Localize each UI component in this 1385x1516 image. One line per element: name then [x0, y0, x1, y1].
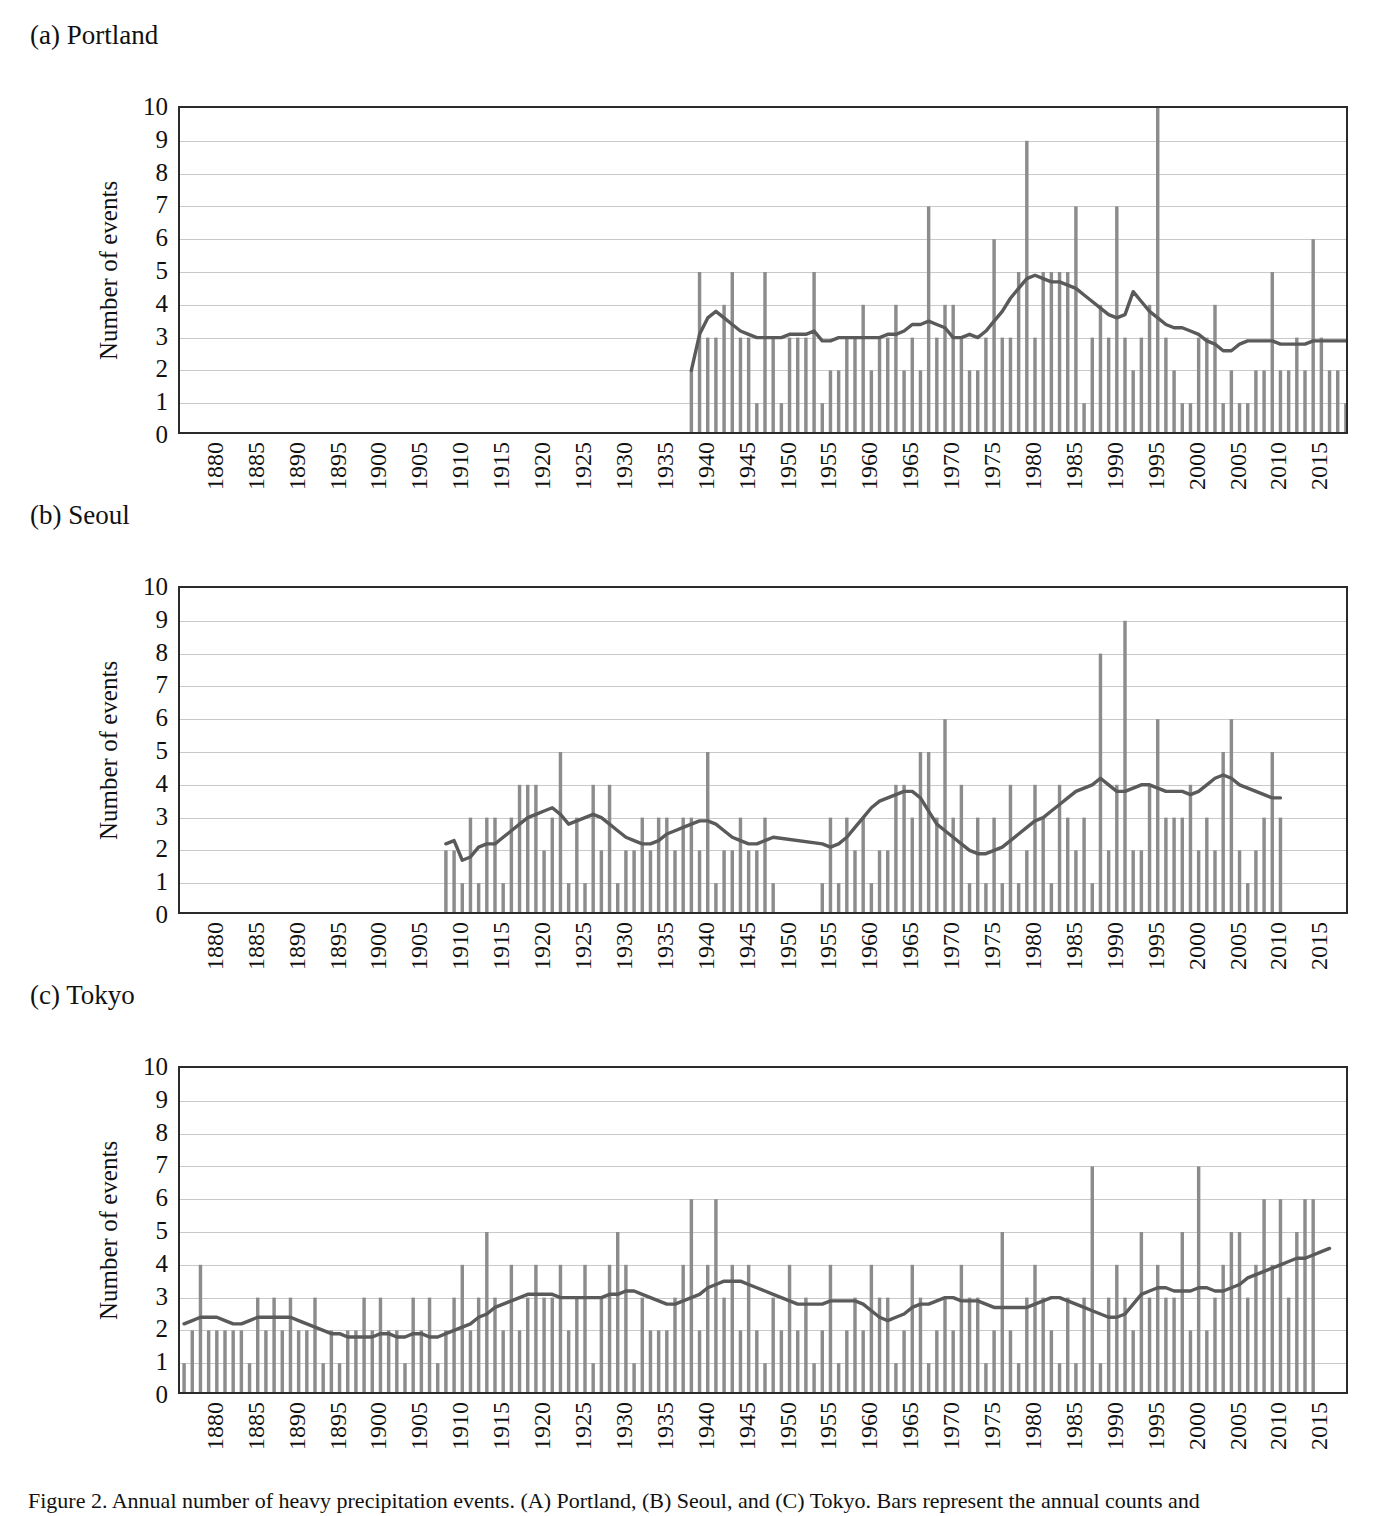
bar	[624, 850, 627, 914]
y-tick-label: 9	[156, 1086, 169, 1111]
x-tick-label: 1990	[1103, 922, 1127, 970]
bar	[837, 883, 840, 914]
x-tick-label: 1930	[612, 922, 636, 970]
bar	[272, 1298, 275, 1394]
bar	[861, 305, 864, 434]
y-tick-label: 4	[156, 1250, 169, 1275]
bar	[191, 1330, 194, 1394]
bar	[698, 1330, 701, 1394]
x-tick-label: 1995	[1144, 922, 1168, 970]
bar	[1082, 818, 1085, 914]
bar	[1295, 1232, 1298, 1394]
y-tick-label: 6	[156, 1185, 169, 1210]
y-tick-label: 10	[143, 1054, 168, 1079]
x-tick-label: 1880	[203, 1402, 227, 1450]
x-tick-label: 1970	[939, 922, 963, 970]
bar	[902, 785, 905, 914]
y-tick-label: 4	[156, 290, 169, 315]
bar	[853, 338, 856, 434]
bar	[542, 1298, 545, 1394]
bar	[1148, 1298, 1151, 1394]
bar	[330, 1330, 333, 1394]
bar	[518, 1330, 521, 1394]
bar	[1001, 883, 1004, 914]
x-tick-label: 1945	[735, 922, 759, 970]
bar	[878, 850, 881, 914]
bar	[1066, 818, 1069, 914]
bar	[829, 1265, 832, 1394]
bar	[1254, 1265, 1257, 1394]
bar	[1262, 370, 1265, 434]
bar	[976, 370, 979, 434]
bar	[600, 1298, 603, 1394]
bar	[771, 1298, 774, 1394]
bar	[1230, 370, 1233, 434]
bar	[902, 370, 905, 434]
x-tick-label: 1965	[898, 922, 922, 970]
bar	[231, 1330, 234, 1394]
y-tick-label: 1	[156, 1349, 169, 1374]
x-tick-label: 1915	[489, 1402, 513, 1450]
x-tick-label: 2015	[1307, 442, 1331, 490]
bar	[968, 1298, 971, 1394]
bar	[1320, 338, 1323, 434]
bar	[992, 239, 995, 434]
bar	[641, 818, 644, 914]
bar	[289, 1298, 292, 1394]
bar	[706, 752, 709, 914]
y-tick-label: 3	[156, 1283, 169, 1308]
y-tick-label: 0	[156, 1382, 169, 1407]
bar	[1058, 272, 1061, 434]
bar	[886, 850, 889, 914]
bar	[861, 1330, 864, 1394]
bar	[960, 338, 963, 434]
bar	[223, 1330, 226, 1394]
bar	[583, 1265, 586, 1394]
bar	[1017, 1363, 1020, 1394]
bar	[951, 305, 954, 434]
bar	[984, 883, 987, 914]
y-tick-label: 7	[156, 192, 169, 217]
bar	[829, 818, 832, 914]
x-tick-label: 1920	[530, 1402, 554, 1450]
x-tick-label: 1975	[980, 922, 1004, 970]
bar	[911, 1265, 914, 1394]
bar	[583, 883, 586, 914]
bar	[632, 1363, 635, 1394]
bar	[534, 1265, 537, 1394]
bar	[420, 1330, 423, 1394]
bar	[673, 1298, 676, 1394]
x-tick-label: 1990	[1103, 1402, 1127, 1450]
bar	[1115, 785, 1118, 914]
bar-series	[690, 108, 1348, 434]
bar	[739, 1330, 742, 1394]
bar	[788, 338, 791, 434]
bar	[731, 272, 734, 434]
x-tick-label: 1910	[448, 922, 472, 970]
bar	[763, 818, 766, 914]
bar	[1017, 272, 1020, 434]
bar	[346, 1330, 349, 1394]
bar	[919, 1298, 922, 1394]
bar	[1328, 370, 1331, 434]
bar	[1213, 1298, 1216, 1394]
bar	[215, 1330, 218, 1394]
x-tick-label: 1975	[980, 442, 1004, 490]
x-tick-label: 1895	[326, 442, 350, 490]
y-tick-label: 5	[156, 738, 169, 763]
bar	[649, 1330, 652, 1394]
x-tick-label: 1880	[203, 442, 227, 490]
bar	[1107, 1298, 1110, 1394]
bar	[493, 1298, 496, 1394]
x-tick-label: 1935	[653, 442, 677, 490]
bar	[673, 850, 676, 914]
x-tick-label: 1940	[694, 442, 718, 490]
bar	[526, 1298, 529, 1394]
bar	[567, 1330, 570, 1394]
x-tick-label: 1900	[366, 1402, 390, 1450]
bar	[1279, 818, 1282, 914]
bar	[1246, 403, 1249, 434]
bar	[1148, 785, 1151, 914]
bar	[510, 1265, 513, 1394]
bar	[1271, 272, 1274, 434]
